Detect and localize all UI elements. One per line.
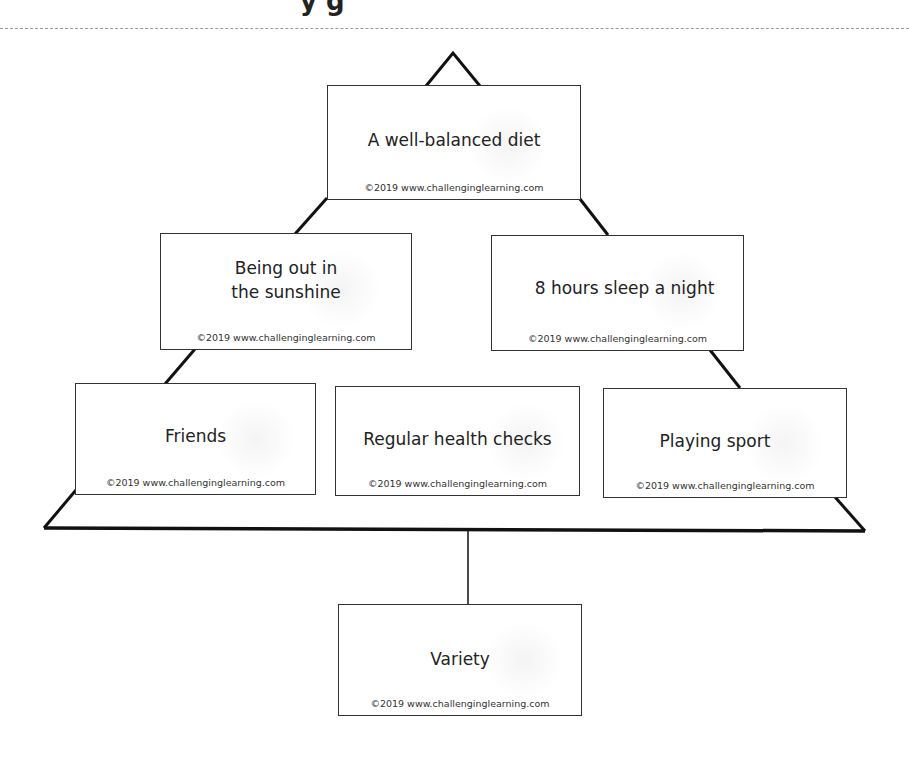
card-label-line2: the sunshine xyxy=(161,280,411,304)
copyright-text: ©2019 www.challenginglearning.com xyxy=(161,332,411,343)
pyramid-base xyxy=(44,528,865,531)
card-low-left[interactable]: Friends ©2019 www.challenginglearning.co… xyxy=(75,383,316,495)
copyright-text: ©2019 www.challenginglearning.com xyxy=(339,698,581,709)
card-label: Regular health checks xyxy=(336,427,579,451)
card-bottom[interactable]: Variety ©2019 www.challenginglearning.co… xyxy=(338,604,582,716)
card-low-right[interactable]: Playing sport ©2019 www.challenginglearn… xyxy=(603,388,847,498)
connector-top-to-midright xyxy=(580,199,608,235)
card-top[interactable]: A well-balanced diet ©2019 www.challengi… xyxy=(327,85,581,200)
card-label: A well-balanced diet xyxy=(328,128,580,152)
copyright-text: ©2019 www.challenginglearning.com xyxy=(492,333,743,344)
card-low-center[interactable]: Regular health checks ©2019 www.challeng… xyxy=(335,386,580,496)
card-label-line1: Being out in xyxy=(161,256,411,280)
copyright-text: ©2019 www.challenginglearning.com xyxy=(604,480,846,491)
card-mid-left[interactable]: Being out in the sunshine ©2019 www.chal… xyxy=(160,233,412,350)
base-left-slope xyxy=(44,490,76,528)
copyright-text: ©2019 www.challenginglearning.com xyxy=(336,478,579,489)
card-label: 8 hours sleep a night xyxy=(492,276,743,300)
connector-midleft-to-lowleft xyxy=(165,349,195,384)
connector-top-to-midleft xyxy=(295,198,327,234)
card-mid-right[interactable]: 8 hours sleep a night ©2019 www.challeng… xyxy=(491,235,744,351)
card-label: Variety xyxy=(339,647,581,671)
apex-triangle xyxy=(426,53,480,86)
copyright-text: ©2019 www.challenginglearning.com xyxy=(76,477,315,488)
base-right-slope xyxy=(835,497,865,531)
card-label: Playing sport xyxy=(604,429,846,453)
card-label: Friends xyxy=(76,424,315,448)
copyright-text: ©2019 www.challenginglearning.com xyxy=(328,182,580,193)
connector-midright-to-lowright xyxy=(710,350,740,388)
